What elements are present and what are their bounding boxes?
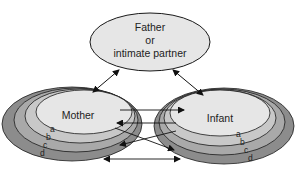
mother-ring-label-a: a <box>50 124 55 134</box>
mother-ring-label-d: d <box>40 148 45 158</box>
father-label-line3: intimate partner <box>114 47 187 59</box>
arrow-father-infant <box>173 70 203 95</box>
diagram: Father or intimate partner Mother a b c … <box>0 0 300 174</box>
infant-ring-label-d: d <box>248 153 253 163</box>
mother-node: Mother a b c d <box>2 87 142 161</box>
mother-label: Mother <box>62 109 95 121</box>
father-label-line1: Father <box>135 21 166 33</box>
infant-label: Infant <box>207 112 233 124</box>
arrow-father-mother <box>93 70 119 92</box>
father-label-line2: or <box>145 34 155 46</box>
father-node: Father or intimate partner <box>90 13 210 71</box>
infant-node: Infant a b c d <box>154 88 294 164</box>
